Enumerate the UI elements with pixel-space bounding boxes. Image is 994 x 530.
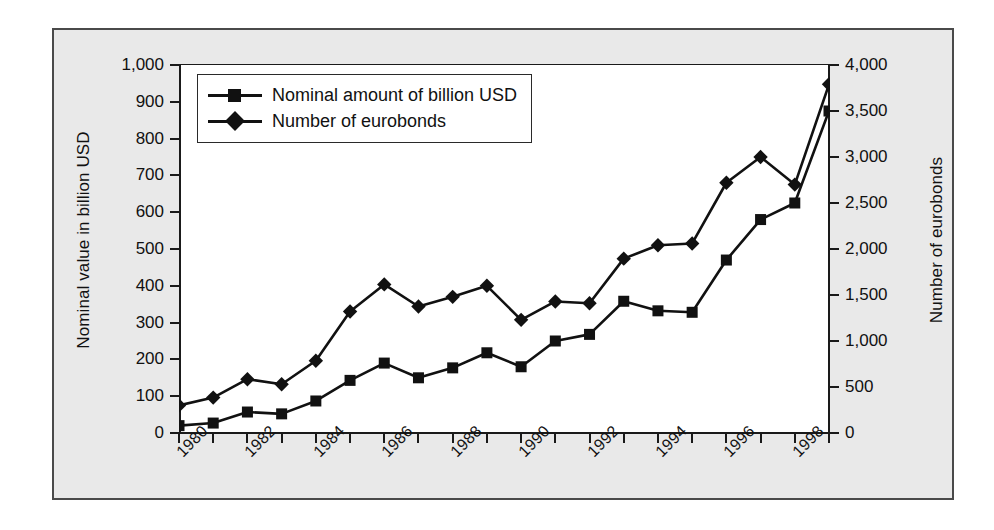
y-axis-right-tick-label: 0 xyxy=(845,424,854,441)
y-axis-left-tick xyxy=(170,138,179,140)
y-axis-left-tick xyxy=(170,285,179,287)
square-marker xyxy=(179,420,185,431)
x-axis-tick xyxy=(349,434,351,443)
diamond-marker xyxy=(206,390,220,404)
x-axis-tick xyxy=(486,434,488,443)
chart-figure: Nominal value in billion USD Number of e… xyxy=(52,28,954,500)
legend-label-number-of-eurobonds: Number of eurobonds xyxy=(272,111,446,132)
square-marker xyxy=(550,336,561,347)
chart-legend: Nominal amount of billion USD Number of … xyxy=(197,74,532,143)
legend-label-nominal-amount: Nominal amount of billion USD xyxy=(272,85,517,106)
square-marker xyxy=(721,255,732,266)
y-axis-left-tick-label: 1,000 xyxy=(94,56,164,73)
diamond-marker xyxy=(651,238,665,252)
y-axis-right-tick-label: 2,500 xyxy=(845,194,888,211)
square-marker xyxy=(310,395,321,406)
y-axis-right-tick-label: 2,000 xyxy=(845,240,888,257)
square-marker xyxy=(824,106,831,117)
y-axis-right-tick xyxy=(830,294,839,296)
square-marker xyxy=(447,362,458,373)
x-axis-tick xyxy=(417,434,419,443)
y-axis-right-tick-label: 500 xyxy=(845,378,873,395)
y-axis-left-tick-label: 0 xyxy=(94,424,164,441)
y-axis-left-tick-label: 500 xyxy=(94,240,164,257)
diamond-marker xyxy=(445,290,459,304)
square-marker xyxy=(208,418,219,429)
square-marker xyxy=(276,408,287,419)
square-marker xyxy=(584,329,595,340)
square-marker xyxy=(345,375,356,386)
square-marker xyxy=(755,214,766,225)
x-axis-tick xyxy=(281,434,283,443)
y-axis-left-title: Nominal value in billion USD xyxy=(74,60,94,420)
x-axis-tick xyxy=(760,434,762,443)
y-axis-left-tick xyxy=(170,395,179,397)
y-axis-right-tick xyxy=(830,386,839,388)
y-axis-right-tick-label: 1,500 xyxy=(845,286,888,303)
y-axis-right-tick xyxy=(830,432,839,434)
y-axis-right-tick xyxy=(830,156,839,158)
y-axis-left-tick-label: 200 xyxy=(94,350,164,367)
diamond-marker xyxy=(179,398,186,412)
y-axis-left-tick xyxy=(170,64,179,66)
y-axis-left-tick-label: 100 xyxy=(94,387,164,404)
diamond-marker xyxy=(274,377,288,391)
y-axis-left-tick-label: 400 xyxy=(94,277,164,294)
square-marker xyxy=(789,198,800,209)
x-axis-tick xyxy=(691,434,693,443)
diamond-marker xyxy=(685,236,699,250)
y-axis-right-title: Number of eurobonds xyxy=(927,60,947,420)
series-line-nominal-amount xyxy=(179,111,829,426)
y-axis-right-tick xyxy=(830,340,839,342)
square-marker xyxy=(481,347,492,358)
y-axis-right-tick xyxy=(830,64,839,66)
y-axis-left-tick xyxy=(170,248,179,250)
square-marker xyxy=(413,372,424,383)
y-axis-right-tick-label: 4,000 xyxy=(845,56,888,73)
y-axis-left-tick xyxy=(170,322,179,324)
legend-item-number-of-eurobonds: Number of eurobonds xyxy=(208,108,517,134)
y-axis-left-tick-label: 800 xyxy=(94,130,164,147)
square-marker xyxy=(687,307,698,318)
square-marker xyxy=(618,296,629,307)
x-axis-tick xyxy=(554,434,556,443)
y-axis-left-tick xyxy=(170,174,179,176)
y-axis-right-tick xyxy=(830,110,839,112)
diamond-marker xyxy=(822,77,830,91)
y-axis-left-tick-label: 600 xyxy=(94,203,164,220)
y-axis-right-tick xyxy=(830,202,839,204)
square-marker xyxy=(242,407,253,418)
y-axis-right-tick xyxy=(830,248,839,250)
legend-item-nominal-amount: Nominal amount of billion USD xyxy=(208,82,517,108)
diamond-marker-icon xyxy=(208,112,262,130)
y-axis-left-tick xyxy=(170,101,179,103)
square-marker xyxy=(516,361,527,372)
y-axis-left-tick-label: 300 xyxy=(94,314,164,331)
diamond-marker xyxy=(240,372,254,386)
y-axis-right-tick-label: 3,000 xyxy=(845,148,888,165)
square-marker-icon xyxy=(208,86,262,104)
diamond-marker xyxy=(411,299,425,313)
y-axis-left-tick-label: 700 xyxy=(94,166,164,183)
x-axis-tick xyxy=(623,434,625,443)
y-axis-left-tick xyxy=(170,358,179,360)
y-axis-left-tick xyxy=(170,211,179,213)
square-marker xyxy=(379,358,390,369)
x-axis-tick xyxy=(828,434,830,443)
square-marker xyxy=(652,305,663,316)
y-axis-right-tick-label: 1,000 xyxy=(845,332,888,349)
x-axis-tick xyxy=(212,434,214,443)
diamond-marker xyxy=(548,294,562,308)
y-axis-left-tick-label: 900 xyxy=(94,93,164,110)
y-axis-right-tick-label: 3,500 xyxy=(845,102,888,119)
